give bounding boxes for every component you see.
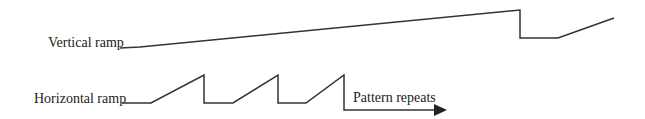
horizontal-ramp-waveform [122,75,440,110]
arrow-head-icon [434,104,447,116]
vertical-ramp-waveform [120,10,614,48]
waveform-canvas [0,0,645,119]
